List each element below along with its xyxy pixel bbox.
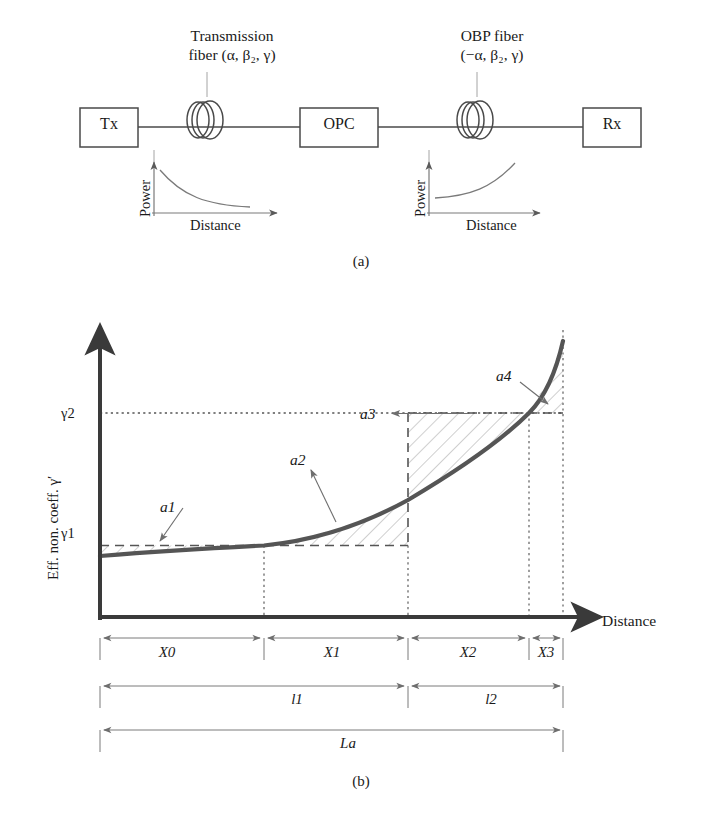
- transmission-fiber-line1: Transmission: [191, 27, 274, 44]
- inset-obp-xlabel: Distance: [466, 216, 517, 234]
- obp-fiber-spool-icon: [457, 101, 493, 139]
- inset-transmission-ylabel: Power: [136, 180, 154, 217]
- segment-label-x0: X0: [137, 643, 197, 662]
- segment-label-x3: X3: [516, 643, 576, 662]
- length-label-l1: l1: [272, 690, 322, 709]
- length-label-l2: l2: [466, 690, 516, 709]
- area-label-a2: a2: [290, 450, 306, 469]
- plot-x-axis-title: Distance: [602, 611, 656, 630]
- hatched-area-a2: [264, 500, 408, 546]
- total-length-label-la: La: [318, 734, 378, 753]
- obp-fiber-line2: (−α, β₂, γ): [461, 46, 524, 63]
- area-label-a1: a1: [160, 497, 176, 516]
- transmission-fiber-spool-icon: [187, 101, 223, 139]
- tx-block-label: Tx: [85, 114, 133, 134]
- inset1-decay-curve: [160, 170, 250, 207]
- area-label-a4: a4: [496, 366, 512, 385]
- a2-arrow: [311, 470, 336, 522]
- inset-obp: [427, 150, 540, 216]
- transmission-fiber-label: Transmission fiber (α, β₂, γ): [147, 26, 317, 65]
- obp-fiber-line1: OBP fiber: [461, 27, 524, 44]
- panel-a-caption: (a): [311, 252, 411, 271]
- inset-obp-ylabel: Power: [411, 180, 429, 217]
- transmission-fiber-line2: fiber (α, β₂, γ): [188, 46, 275, 63]
- inset-transmission: [152, 150, 277, 216]
- y-tick-gamma1: γ1: [61, 524, 75, 542]
- segment-label-x1: X1: [302, 643, 362, 662]
- panel-b-caption: (b): [311, 772, 411, 791]
- y-tick-gamma2: γ2: [61, 404, 75, 422]
- figure-container: Transmission fiber (α, β₂, γ) OBP fiber …: [0, 0, 721, 815]
- inset-transmission-xlabel: Distance: [190, 216, 241, 234]
- area-label-a3: a3: [360, 404, 376, 423]
- plot-y-axis-title: Eff. non. coeff. γ′: [44, 476, 63, 580]
- eff-nonlinear-coeff-curve: [100, 341, 563, 556]
- rx-block-label: Rx: [588, 114, 636, 134]
- obp-fiber-label: OBP fiber (−α, β₂, γ): [412, 26, 572, 65]
- opc-block-label: OPC: [308, 114, 370, 134]
- segment-label-x2: X2: [438, 643, 498, 662]
- inset2-growth-curve: [435, 163, 515, 198]
